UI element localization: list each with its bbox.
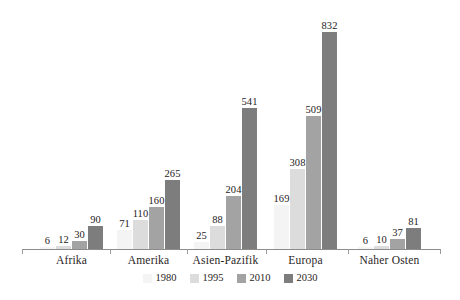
x-axis-line — [22, 249, 440, 250]
bar-2030-amerika[interactable] — [165, 180, 180, 249]
bar-value-label: 308 — [289, 157, 305, 168]
legend-swatch-icon — [143, 274, 152, 283]
bar-column[interactable]: 832 — [322, 8, 337, 249]
bar-column[interactable]: 30 — [72, 8, 87, 249]
bar-group-bars: 2588204541 — [194, 8, 257, 249]
bar-value-label: 541 — [241, 96, 257, 107]
bar-1995-amerika[interactable] — [133, 220, 148, 249]
bar-value-label: 90 — [90, 214, 101, 225]
bar-value-label: 832 — [321, 20, 337, 31]
bar-value-label: 25 — [196, 230, 207, 241]
bar-2010-afrika[interactable] — [72, 241, 87, 249]
bar-group-bars: 71110160265 — [117, 8, 180, 249]
bar-column[interactable]: 541 — [242, 8, 257, 249]
bar-column[interactable]: 71 — [117, 8, 132, 249]
bar-2010-amerika[interactable] — [149, 207, 164, 249]
category-label-naher-osten: Naher Osten — [330, 253, 450, 267]
bar-1995-europa[interactable] — [290, 169, 305, 249]
chart-legend: 1980199520102030 — [0, 272, 460, 284]
bar-2010-naher-osten[interactable] — [390, 239, 405, 249]
bar-value-label: 30 — [74, 229, 85, 240]
legend-label: 1980 — [156, 272, 177, 284]
bar-group: 6103781 — [358, 8, 421, 249]
bar-group-bars: 6123090 — [40, 8, 103, 249]
bar-value-label: 265 — [164, 168, 180, 179]
bar-column[interactable]: 25 — [194, 8, 209, 249]
bar-value-label: 160 — [148, 195, 164, 206]
bar-group-bars: 169308509832 — [274, 8, 337, 249]
legend-item-1980[interactable]: 1980 — [143, 272, 177, 284]
bar-group: 71110160265 — [117, 8, 180, 249]
legend-item-1995[interactable]: 1995 — [190, 272, 224, 284]
bar-2030-naher-osten[interactable] — [406, 228, 421, 249]
bar-column[interactable]: 110 — [133, 8, 148, 249]
bar-column[interactable]: 6 — [358, 8, 373, 249]
bar-chart: 6123090711101602652588204541169308509832… — [0, 0, 460, 300]
bar-column[interactable]: 160 — [149, 8, 164, 249]
bar-value-label: 204 — [225, 184, 241, 195]
legend-swatch-icon — [237, 274, 246, 283]
bar-column[interactable]: 81 — [406, 8, 421, 249]
bar-column[interactable]: 6 — [40, 8, 55, 249]
bar-value-label: 71 — [119, 218, 130, 229]
bar-column[interactable]: 88 — [210, 8, 225, 249]
bar-value-label: 169 — [273, 193, 289, 204]
bar-2030-asien-pazifik[interactable] — [242, 108, 257, 249]
bar-column[interactable]: 90 — [88, 8, 103, 249]
bar-value-label: 88 — [212, 214, 223, 225]
bar-column[interactable]: 12 — [56, 8, 71, 249]
bar-column[interactable]: 509 — [306, 8, 321, 249]
legend-label: 2010 — [250, 272, 271, 284]
bar-1980-asien-pazifik[interactable] — [194, 242, 209, 249]
bar-column[interactable]: 10 — [374, 8, 389, 249]
legend-swatch-icon — [284, 274, 293, 283]
bar-group: 6123090 — [40, 8, 103, 249]
bar-value-label: 6 — [363, 235, 368, 246]
legend-label: 1995 — [203, 272, 224, 284]
bar-2010-europa[interactable] — [306, 116, 321, 249]
bar-value-label: 37 — [392, 227, 403, 238]
bar-1980-europa[interactable] — [274, 205, 289, 249]
bar-value-label: 12 — [58, 234, 69, 245]
bar-2010-asien-pazifik[interactable] — [226, 196, 241, 249]
bar-group: 2588204541 — [194, 8, 257, 249]
bar-group-bars: 6103781 — [358, 8, 421, 249]
bar-column[interactable]: 169 — [274, 8, 289, 249]
bar-column[interactable]: 308 — [290, 8, 305, 249]
legend-label: 2030 — [297, 272, 318, 284]
bar-group: 169308509832 — [274, 8, 337, 249]
legend-swatch-icon — [190, 274, 199, 283]
bar-value-label: 509 — [305, 104, 321, 115]
bar-1995-asien-pazifik[interactable] — [210, 226, 225, 249]
bar-2030-europa[interactable] — [322, 32, 337, 249]
plot-area: 6123090711101602652588204541169308509832… — [22, 8, 440, 249]
bar-column[interactable]: 204 — [226, 8, 241, 249]
bar-2030-afrika[interactable] — [88, 226, 103, 249]
legend-item-2030[interactable]: 2030 — [284, 272, 318, 284]
bar-value-label: 6 — [45, 235, 50, 246]
bar-column[interactable]: 37 — [390, 8, 405, 249]
bar-value-label: 10 — [376, 234, 387, 245]
bar-value-label: 110 — [133, 208, 149, 219]
bar-value-label: 81 — [408, 216, 419, 227]
legend-item-2010[interactable]: 2010 — [237, 272, 271, 284]
bar-1980-amerika[interactable] — [117, 230, 132, 249]
bar-column[interactable]: 265 — [165, 8, 180, 249]
